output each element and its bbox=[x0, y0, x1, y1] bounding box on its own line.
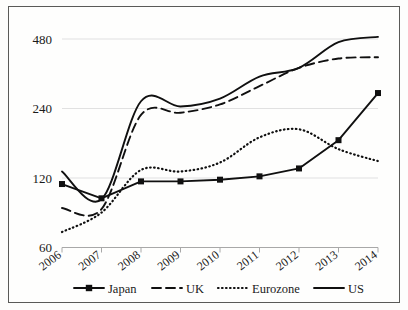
data-point-marker bbox=[59, 181, 65, 187]
legend-label-eurozone: Eurozone bbox=[252, 282, 300, 296]
data-point-marker bbox=[336, 137, 342, 143]
x-axis-tick-label: 2012 bbox=[273, 248, 301, 274]
x-axis-tick-label: 2011 bbox=[234, 248, 261, 273]
series-uk bbox=[62, 57, 378, 215]
data-point-marker bbox=[257, 173, 263, 179]
y-axis-tick-label: 120 bbox=[33, 171, 53, 186]
x-axis-tick-label: 2013 bbox=[313, 248, 341, 274]
x-axis-tick-label: 2008 bbox=[115, 248, 143, 274]
legend-marker-japan bbox=[86, 285, 92, 291]
data-point-marker bbox=[138, 178, 144, 184]
legend-label-uk: UK bbox=[186, 282, 204, 296]
data-point-marker bbox=[217, 177, 223, 183]
x-axis-tick-label: 2009 bbox=[155, 248, 183, 274]
y-axis-tick-label: 240 bbox=[33, 101, 53, 116]
chart-legend: JapanUKEurozoneUS bbox=[74, 282, 364, 296]
data-point-marker bbox=[178, 178, 184, 184]
line-chart: 4802401206020062007200820092010201120122… bbox=[0, 0, 408, 310]
x-axis-tick-label: 2014 bbox=[352, 248, 380, 274]
data-point-marker bbox=[296, 165, 302, 171]
x-axis-tick-label: 2010 bbox=[194, 248, 222, 274]
x-axis-tick-label: 2007 bbox=[76, 248, 104, 274]
legend-label-japan: Japan bbox=[108, 282, 137, 296]
series-line-uk bbox=[62, 57, 378, 215]
chart-figure: 4802401206020062007200820092010201120122… bbox=[0, 0, 408, 310]
legend-label-us: US bbox=[348, 282, 364, 296]
data-point-marker bbox=[375, 90, 381, 96]
gridlines bbox=[62, 39, 378, 248]
y-axis-tick-label: 480 bbox=[33, 32, 53, 47]
